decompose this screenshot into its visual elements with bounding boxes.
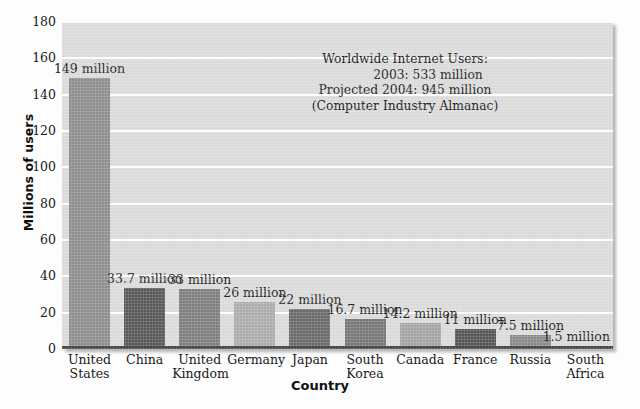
annotation-line-4: (Computer Industry Almanac): [290, 99, 520, 115]
annotation-line-2: 2003: 533 million: [290, 68, 520, 84]
annotation-note: Worldwide Internet Users: 2003: 533 mill…: [290, 52, 520, 114]
x-axis-category-line: China: [117, 353, 172, 367]
x-axis-title: Country: [0, 378, 640, 393]
x-axis-category-line: Russia: [503, 353, 558, 367]
x-axis-category-label: SouthKorea: [338, 353, 393, 381]
bar-value-label: 1.5 million: [543, 329, 610, 344]
x-axis-line: [62, 346, 613, 349]
x-axis-category-label: China: [117, 353, 172, 367]
x-axis-category-label: SouthAfrica: [558, 353, 613, 381]
y-axis-tick-label: 80: [12, 196, 56, 211]
bar-value-label: 149 million: [54, 61, 125, 76]
x-axis-category-label: UnitedStates: [62, 353, 117, 381]
y-axis-tick-label: 160: [12, 50, 56, 65]
x-axis-category-line: United: [62, 353, 117, 367]
y-axis-tick-label: 100: [12, 159, 56, 174]
x-axis-category-line: United: [172, 353, 227, 367]
x-axis-category-line: Canada: [393, 353, 448, 367]
gridline: [62, 239, 613, 241]
x-axis-category-line: South: [338, 353, 393, 367]
bar[interactable]: 149 million: [69, 78, 110, 349]
x-axis-category-line: Japan: [282, 353, 337, 367]
y-axis-tick-label: 0: [12, 341, 56, 356]
x-axis-category-line: Germany: [227, 353, 282, 367]
gridline: [62, 21, 613, 23]
y-axis-tick-label: 180: [12, 14, 56, 29]
y-axis-tick-label: 40: [12, 268, 56, 283]
y-axis-tick-label: 20: [12, 305, 56, 320]
y-axis-tick-label: 120: [12, 123, 56, 138]
gridline: [62, 166, 613, 168]
bar-value-label: 26 million: [223, 285, 286, 300]
x-axis-category-label: Japan: [282, 353, 337, 367]
plot-area: 149 million33.7 million33 million26 mill…: [62, 22, 613, 349]
annotation-line-3: Projected 2004: 945 million: [290, 83, 520, 99]
bar[interactable]: 22 million: [289, 309, 330, 349]
bar[interactable]: 33.7 million: [124, 288, 165, 349]
chart-figure: Millions of users 149 million33.7 millio…: [0, 0, 640, 409]
gridline: [62, 130, 613, 132]
x-axis-category-line: France: [448, 353, 503, 367]
x-axis-category-label: Germany: [227, 353, 282, 367]
y-axis-tick-label: 60: [12, 232, 56, 247]
x-axis-category-line: South: [558, 353, 613, 367]
x-axis-category-label: France: [448, 353, 503, 367]
bar[interactable]: 16.7 million: [345, 319, 386, 349]
y-axis-tick-label: 140: [12, 87, 56, 102]
gridline: [62, 203, 613, 205]
annotation-line-1: Worldwide Internet Users:: [290, 52, 520, 68]
x-axis-category-label: Russia: [503, 353, 558, 367]
x-axis-category-label: UnitedKingdom: [172, 353, 227, 381]
bar-value-label: 33 million: [168, 272, 231, 287]
x-axis-category-label: Canada: [393, 353, 448, 367]
bar[interactable]: 26 million: [234, 302, 275, 349]
bar[interactable]: 33 million: [179, 289, 220, 349]
